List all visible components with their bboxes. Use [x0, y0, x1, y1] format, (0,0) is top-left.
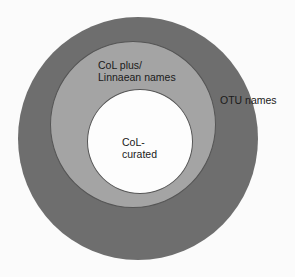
middle-ring-label-line2: Linnaean names [98, 71, 176, 83]
inner-circle-label-line2: curated [122, 148, 157, 160]
outer-ring-label: OTU names [220, 94, 277, 106]
inner-circle-label-line1: CoL- [122, 136, 157, 148]
middle-ring-label: CoL plus/ Linnaean names [98, 59, 176, 83]
inner-circle-label: CoL- curated [122, 136, 157, 160]
middle-ring-label-line1: CoL plus/ [98, 59, 176, 71]
